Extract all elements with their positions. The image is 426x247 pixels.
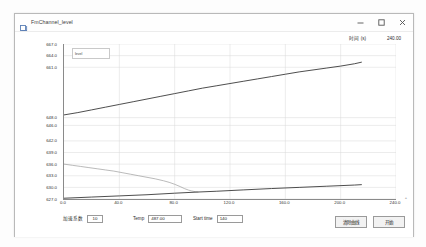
temp-input[interactable]: 487.00: [148, 215, 182, 223]
x-tick-label: 40.0: [114, 200, 122, 206]
legend-label: level: [75, 51, 82, 57]
y-tick-label: 648.0: [46, 115, 57, 120]
minimize-icon[interactable]: [350, 14, 371, 31]
x-tick-label: 120.0: [224, 200, 235, 206]
axis-corner-mark: +: [405, 195, 407, 200]
series-upper-level: [64, 62, 361, 115]
x-tick-label: 0.0: [60, 200, 66, 206]
app-icon: [20, 18, 28, 26]
series-decay-curve: [64, 164, 198, 192]
window-titlebar[interactable]: FmChannel_level: [15, 14, 413, 32]
accel-coefficient-group: 加速系数 10: [63, 215, 103, 223]
x-tick-label: 80.0: [169, 200, 177, 206]
app-root: FmChannel_level 时间 (s) 240.00: [0, 0, 426, 247]
x-tick-label: 160.0: [279, 200, 290, 206]
y-tick-label: 646.0: [46, 123, 57, 128]
chart-window: FmChannel_level 时间 (s) 240.00: [14, 13, 414, 237]
y-axis-ticks: 667.0664.0661.0648.0646.0642.0639.0636.0…: [15, 44, 60, 199]
start-button[interactable]: 开始: [373, 216, 405, 228]
x-tick-label: 200.0: [334, 200, 345, 206]
y-tick-label: 633.0: [46, 173, 57, 178]
window-controls: [350, 14, 413, 31]
y-tick-label: 661.0: [46, 65, 57, 70]
y-tick-label: 639.0: [46, 150, 57, 155]
y-tick-label: 664.0: [46, 53, 57, 58]
legend-box: level: [72, 48, 110, 59]
window-title: FmChannel_level: [31, 18, 73, 26]
y-tick-label: 667.0: [46, 42, 57, 47]
close-icon[interactable]: [392, 14, 413, 31]
accel-coefficient-input[interactable]: 10: [87, 215, 103, 223]
temp-label: Temp: [133, 215, 144, 223]
series-lower-level: [64, 185, 361, 199]
start-time-group: Start time 140: [193, 215, 243, 223]
start-time-input[interactable]: 140: [217, 215, 243, 223]
clear-curve-button[interactable]: 清除曲线: [335, 216, 367, 228]
y-tick-label: 636.0: [46, 162, 57, 167]
chart-body: 时间 (s) 240.00 667.0664.0661.0648.0646.06…: [15, 32, 413, 237]
plot-area[interactable]: level: [63, 44, 396, 200]
maximize-icon[interactable]: [371, 14, 392, 31]
plot-canvas: [64, 44, 396, 199]
y-tick-label: 627.0: [46, 197, 57, 202]
grid-lines: [64, 44, 396, 199]
start-time-label: Start time: [193, 215, 213, 223]
y-tick-label: 642.0: [46, 138, 57, 143]
temp-group: Temp 487.00: [133, 215, 182, 223]
time-axis-value: 240.00: [387, 35, 401, 42]
data-series: [64, 62, 361, 198]
time-axis-label: 时间 (s): [349, 35, 366, 42]
control-bar: 加速系数 10 Temp 487.00 Start time 140 清除曲线 …: [15, 208, 413, 237]
x-tick-label: 240.0: [390, 200, 401, 206]
accel-coefficient-label: 加速系数: [63, 215, 83, 223]
y-tick-label: 630.0: [46, 185, 57, 190]
